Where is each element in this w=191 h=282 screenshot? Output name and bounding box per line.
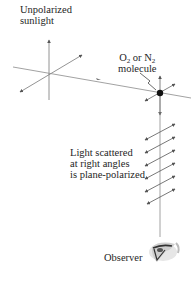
- scatter-label-line3: is plane-polarized: [70, 169, 145, 180]
- molecule-dot-icon: [157, 90, 163, 96]
- observer-label: Observer: [104, 252, 142, 263]
- molecule-label-line1: O2 or N2: [118, 52, 156, 63]
- sunlight-label: Unpolarized sunlight: [20, 4, 72, 26]
- molecule-label-line2: molecule: [118, 63, 156, 74]
- molecule-label-o: O: [119, 52, 127, 63]
- molecule-label: O2 or N2 molecule: [118, 52, 156, 74]
- scattering-diagram: [0, 0, 191, 282]
- sunlight-label-line2: sunlight: [20, 15, 72, 26]
- sunlight-label-line1: Unpolarized: [20, 4, 72, 15]
- scatter-label: Light scattered at right angles is plane…: [70, 147, 145, 180]
- sunlight-ray: [13, 67, 191, 98]
- scatter-label-line2: at right angles: [70, 158, 145, 169]
- molecule-label-or: or N: [130, 52, 152, 63]
- molecule-pointer: [140, 73, 156, 90]
- eye-icon: [149, 243, 179, 262]
- scatter-label-line1: Light scattered: [70, 147, 145, 158]
